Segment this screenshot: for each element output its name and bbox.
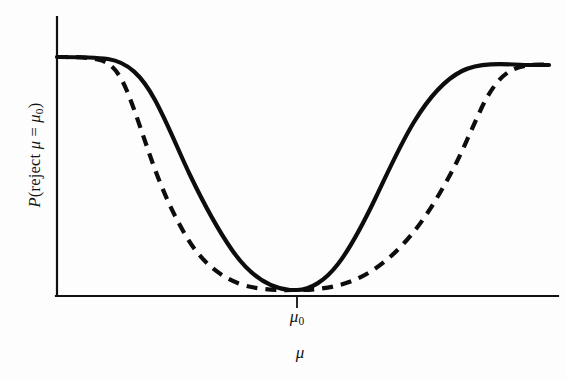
solid-power-curve (57, 57, 549, 290)
x-tick-label-mu0-subscript: 0 (298, 315, 304, 328)
dashed-power-curve (57, 57, 549, 290)
power-curve-figure: P(reject μ = μ0) μ0 μ (0, 0, 566, 380)
x-tick-label-mu0: μ0 (0, 307, 566, 328)
x-axis-label: μ (0, 343, 566, 363)
x-axis-label-mu: μ (296, 343, 305, 362)
